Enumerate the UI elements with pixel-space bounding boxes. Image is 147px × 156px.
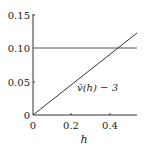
chart: 0.15 0.10 0.05 0 0 0.2 0.4 h v̄(h) − 3 bbox=[0, 0, 147, 156]
y-tick-label: 0.05 bbox=[8, 77, 30, 88]
x-axis: 0 0.2 0.4 h bbox=[30, 113, 137, 146]
x-axis-label: h bbox=[80, 133, 87, 146]
y-tick-label: 0.15 bbox=[8, 10, 30, 21]
y-axis: 0.15 0.10 0.05 0 bbox=[8, 10, 35, 121]
x-tick-label: 0.2 bbox=[63, 120, 79, 131]
y-tick-label: 0.10 bbox=[8, 43, 30, 54]
series-annotation: v̄(h) − 3 bbox=[77, 82, 118, 93]
x-tick-label: 0 bbox=[30, 120, 36, 131]
x-tick-label: 0.4 bbox=[102, 120, 118, 131]
series-line bbox=[33, 33, 137, 115]
